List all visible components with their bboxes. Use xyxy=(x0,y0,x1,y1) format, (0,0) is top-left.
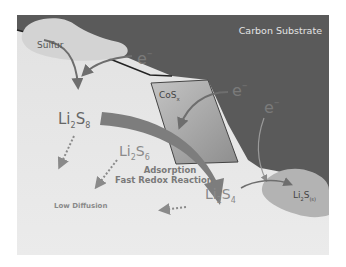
fast-redox-label: Fast Redox Reaction xyxy=(115,175,213,185)
carbon-substrate-label: Carbon Substrate xyxy=(239,25,322,36)
sulfur-label: Sulfur xyxy=(37,40,64,50)
low-diffusion-label: Low Diffusion xyxy=(54,202,107,210)
adsorption-label: Adsorption xyxy=(144,165,197,175)
li-s-catalysis-diagram: Carbon Substrate Sulfur CoSx e− e− e− Li… xyxy=(0,0,346,267)
